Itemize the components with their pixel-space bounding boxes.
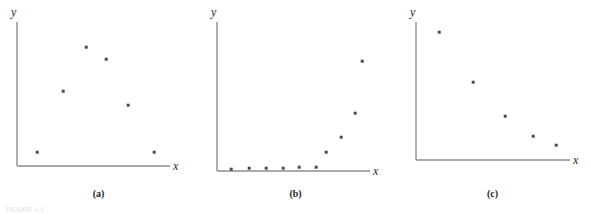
axes-b xyxy=(197,0,394,185)
x-axis-label-b: x xyxy=(373,165,378,177)
data-point xyxy=(361,60,364,63)
panel-caption-c: (c) xyxy=(394,188,591,199)
data-point xyxy=(315,166,318,169)
axes-c xyxy=(394,0,591,185)
figure-panel-row: y x (a) y x xyxy=(0,0,591,214)
data-point xyxy=(85,46,88,49)
panel-caption-b: (b) xyxy=(197,188,394,199)
scatter-panel-a: y x (a) xyxy=(0,0,197,214)
data-point xyxy=(325,151,328,154)
panel-caption-a: (a) xyxy=(0,188,197,199)
data-point xyxy=(298,166,301,169)
plot-area-a: y x xyxy=(0,0,197,185)
data-point xyxy=(153,151,156,154)
scatter-panel-b: y x (b) xyxy=(197,0,394,214)
y-axis-label-c: y xyxy=(410,6,415,18)
data-point xyxy=(127,104,130,107)
x-axis-label-c: x xyxy=(573,154,578,166)
data-point xyxy=(354,112,357,115)
data-point xyxy=(438,31,441,34)
y-axis-label-a: y xyxy=(11,6,16,18)
plot-area-b: y x xyxy=(197,0,394,185)
data-point xyxy=(282,167,285,170)
data-point xyxy=(340,136,343,139)
data-point xyxy=(230,168,233,171)
data-point xyxy=(36,151,39,154)
x-axis-label-a: x xyxy=(173,160,178,172)
data-point xyxy=(532,135,535,138)
clipped-figure-label: FIGURE 1-1 xyxy=(6,206,126,213)
scatter-panel-c: y x (c) xyxy=(394,0,591,214)
data-point xyxy=(555,144,558,147)
data-point xyxy=(105,58,108,61)
data-point xyxy=(248,167,251,170)
data-point xyxy=(265,167,268,170)
data-point xyxy=(62,90,65,93)
y-axis-label-b: y xyxy=(211,6,216,18)
data-point xyxy=(504,115,507,118)
data-point xyxy=(472,81,475,84)
plot-area-c: y x xyxy=(394,0,591,185)
axes-a xyxy=(0,0,197,185)
